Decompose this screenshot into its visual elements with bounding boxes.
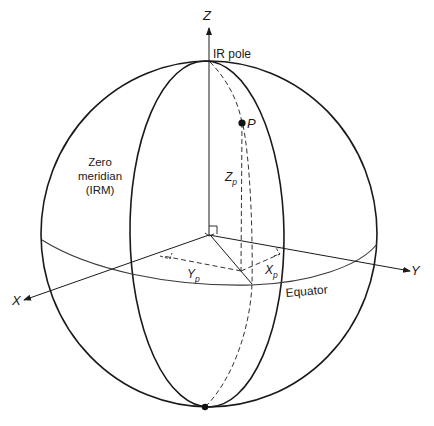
meridian-through-p-upper [210,62,242,123]
zp-label-sub: p [231,177,237,187]
point-p-marker [238,119,245,126]
yp-label-sub: p [194,274,200,284]
xp-dashed-line [241,254,280,271]
xp-label-sub: p [272,270,278,280]
x-axis-label: X [11,293,22,308]
point-p-label: P [247,116,256,131]
y-axis [209,235,410,271]
zero-meridian-label-line3: (IRM) [86,184,115,196]
y-axis-label: Y [411,263,421,278]
yp-dashed-line [163,256,241,271]
z-axis-label: Z [202,8,212,23]
equator-label: Equator [285,282,328,300]
x-axis [24,235,209,300]
zero-meridian-label-line1: Zero [88,156,112,168]
sphere-diagram: Z IR pole P Zero meridian (IRM) Zp Yp Xp… [0,0,434,426]
ir-pole-label: IR pole [213,47,251,61]
projection-radius-line [211,236,252,284]
south-pole-marker [202,404,208,410]
zp-dashed-line [241,123,242,271]
right-angle-marker-x [160,253,172,259]
equator-line [42,240,377,285]
yp-label: Yp [187,267,200,284]
diagram-canvas: Z IR pole P Zero meridian (IRM) Zp Yp Xp… [0,0,434,426]
xp-label: Xp [264,263,278,280]
right-angle-marker-origin [205,226,217,236]
zp-label: Zp [224,170,237,187]
zero-meridian-label-line2: meridian [78,170,122,182]
